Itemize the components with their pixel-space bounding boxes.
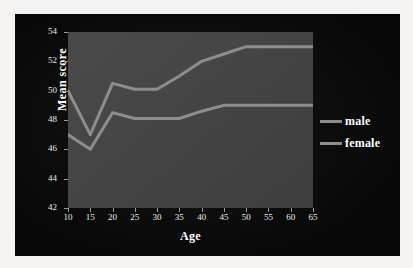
- legend-item-male[interactable]: male: [320, 110, 398, 132]
- x-axis-tick-label: 10: [58, 213, 78, 222]
- y-axis-tick-label: 42: [31, 203, 57, 212]
- y-axis-tick-label: 54: [31, 27, 57, 36]
- x-axis-tick-label: 35: [169, 213, 189, 222]
- plot-area: [68, 32, 313, 208]
- x-axis-tick-label: 65: [303, 213, 323, 222]
- x-axis-tick-label: 40: [192, 213, 212, 222]
- x-axis-tick-label: 55: [258, 213, 278, 222]
- x-axis-tick-label: 50: [236, 213, 256, 222]
- legend-item-female[interactable]: female: [320, 132, 398, 154]
- x-axis-tick-label: 30: [147, 213, 167, 222]
- x-axis-label: Age: [68, 229, 313, 244]
- legend-swatch-icon: [320, 120, 342, 123]
- x-axis-tick-label: 60: [281, 213, 301, 222]
- x-axis-tick-label: 20: [103, 213, 123, 222]
- series-line-female: [68, 105, 313, 149]
- chart-page: Mean score 42444648505254 10152025303540…: [0, 0, 413, 268]
- y-axis-tick-label: 50: [31, 86, 57, 95]
- series-lines: [68, 32, 313, 208]
- x-axis-tick-label: 25: [125, 213, 145, 222]
- legend-label: male: [345, 114, 370, 129]
- x-axis-tick-label: 45: [214, 213, 234, 222]
- legend-label: female: [345, 136, 380, 151]
- chart-panel: Mean score 42444648505254 10152025303540…: [15, 14, 400, 256]
- series-line-male: [68, 47, 313, 135]
- y-axis-tick-label: 52: [31, 56, 57, 65]
- y-axis-tick-label: 44: [31, 174, 57, 183]
- x-axis-tick-label: 15: [80, 213, 100, 222]
- y-axis-tick-label: 46: [31, 144, 57, 153]
- chart-legend: malefemale: [320, 110, 398, 154]
- legend-swatch-icon: [320, 142, 342, 145]
- y-axis-tick-label: 48: [31, 115, 57, 124]
